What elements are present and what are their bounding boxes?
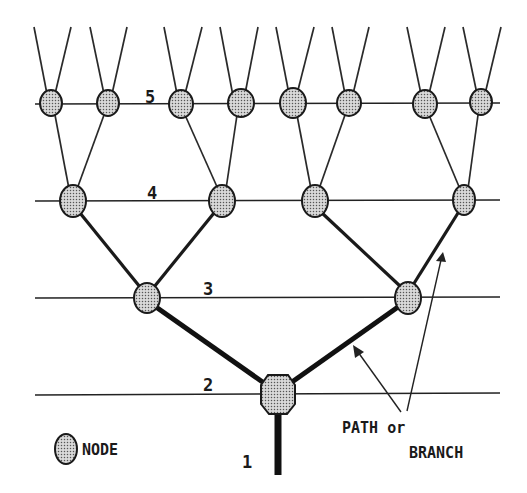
legend-node-icon (55, 434, 77, 464)
level-3-label: 3 (203, 279, 213, 299)
node (395, 282, 421, 314)
legend-node-label: NODE (82, 441, 118, 459)
legend-path-label-line1: PATH or (342, 419, 405, 437)
level-3-to-4-branches (80, 213, 458, 287)
tree-diagram: 5 4 3 2 1 NODE PATH or BRANCH (0, 0, 527, 493)
node (97, 90, 119, 116)
node (413, 90, 437, 118)
level-4-to-5-branches (55, 115, 478, 189)
level-3-line (35, 297, 500, 298)
level-lines (35, 103, 500, 395)
level-4-label: 4 (147, 183, 157, 203)
node (228, 89, 254, 117)
node (209, 185, 235, 217)
node (453, 185, 475, 215)
node (134, 283, 160, 313)
level-2-label: 2 (203, 375, 213, 395)
legend-node: NODE (55, 434, 118, 464)
node (280, 88, 306, 118)
node (470, 89, 492, 115)
node (302, 185, 328, 217)
node (261, 375, 295, 414)
level-4-line (35, 200, 500, 201)
node (337, 90, 361, 116)
arrowhead-icon (436, 252, 446, 262)
legend-path-label-line2: BRANCH (409, 444, 463, 462)
arrow-to-level2-branch (358, 352, 401, 412)
level-2-to-3-branches (156, 307, 398, 383)
level-1-label: 1 (242, 452, 252, 472)
arrowhead-icon (353, 345, 364, 358)
node (169, 90, 193, 118)
level-5-upper-branches (34, 27, 501, 96)
node (40, 90, 62, 116)
level-5-label: 5 (145, 87, 155, 107)
level-2-nodes (261, 375, 295, 414)
node (60, 185, 86, 217)
